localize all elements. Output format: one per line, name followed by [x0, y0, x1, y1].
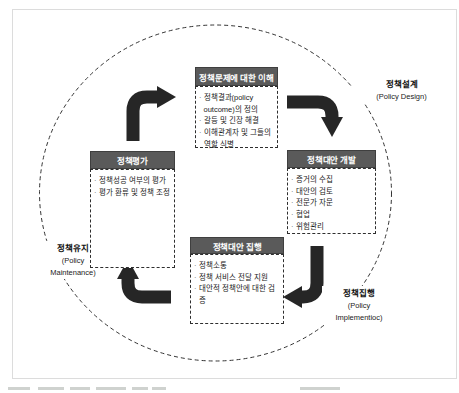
- bullet-icon: ·: [94, 175, 97, 187]
- label-policy-implementation-ko: 정책집행: [324, 287, 394, 300]
- label-policy-design: 정책설계 (Policy Design): [352, 77, 451, 104]
- node-policy-alternatives-header: 정책대안 개발: [287, 150, 376, 168]
- node-item-text: 증거의 수집: [296, 174, 333, 186]
- label-policy-maintenance-en2: Maintenance): [35, 267, 111, 279]
- node-item: ·정책 서비스 전달 지원: [194, 272, 280, 284]
- node-item: ·정책소통: [194, 260, 280, 272]
- node-policy-evaluation-header: 정책평가: [90, 151, 175, 169]
- label-policy-implementation-en2: Implementioc): [324, 312, 394, 324]
- label-policy-design-en: (Policy Design): [354, 91, 449, 103]
- bullet-icon: ·: [291, 221, 294, 233]
- policy-cycle-figure: 정책문제에 대한 이해 ·정책결과(policy outcome)의 정의·갈등…: [0, 0, 459, 393]
- cycle-overlay-graphics: [0, 0, 459, 393]
- node-policy-alternatives: 정책대안 개발 ·증거의 수집·대안의 검토·전문가 자문·협업·위험관리: [287, 150, 376, 234]
- node-item: ·대안의 검토: [291, 186, 372, 198]
- node-policy-problem: 정책문제에 대한 이해 ·정책결과(policy outcome)의 정의·갈등…: [195, 67, 278, 148]
- node-policy-problem-body: ·정책결과(policy outcome)의 정의·갈등 및 긴장 해결·이해관…: [195, 86, 278, 148]
- bullet-icon: ·: [199, 92, 202, 104]
- arrow-evaluation-to-problem-icon: [133, 86, 176, 141]
- node-policy-problem-header: 정책문제에 대한 이해: [195, 67, 278, 86]
- bullet-icon: ·: [291, 209, 294, 221]
- bullet-icon: ·: [291, 197, 294, 209]
- label-policy-implementation: 정책집행 (Policy Implementioc): [322, 286, 396, 324]
- node-policy-implementation-body: ·정책소통·정책 서비스 전달 지원·대안적 정책안에 대한 검증: [190, 254, 284, 324]
- node-item: ·전문가 자문: [291, 197, 372, 209]
- node-policy-evaluation-body: ·정책성공 여부의 평가·평가 환류 및 정책 조정: [90, 169, 175, 268]
- arrow-problem-to-alternatives-icon: [287, 102, 343, 137]
- bullet-icon: ·: [291, 174, 294, 186]
- bullet-icon: ·: [199, 127, 202, 139]
- node-item-text: 이해관계자 및 그들의 역할 식별: [204, 127, 275, 150]
- node-item-text: 평가 환류 및 정책 조정: [99, 187, 170, 199]
- node-policy-implementation-header: 정책대안 집행: [190, 237, 284, 254]
- label-policy-design-ko: 정책설계: [354, 78, 449, 91]
- node-item-text: 전문가 자문: [296, 197, 333, 209]
- bullet-icon: ·: [194, 283, 197, 295]
- node-item-text: 협업: [296, 209, 310, 221]
- node-policy-alternatives-body: ·증거의 수집·대안의 검토·전문가 자문·협업·위험관리: [287, 168, 376, 234]
- node-item-text: 정책 서비스 전달 지원: [199, 272, 268, 284]
- node-item: ·대안적 정책안에 대한 검증: [194, 283, 280, 306]
- bullet-icon: ·: [291, 186, 294, 198]
- node-item-text: 갈등 및 긴장 해결: [204, 115, 259, 127]
- node-item: ·평가 환류 및 정책 조정: [94, 187, 171, 199]
- node-item-text: 정책결과(policy outcome)의 정의: [204, 92, 275, 115]
- label-policy-implementation-en1: (Policy: [324, 300, 394, 312]
- node-item-text: 정책성공 여부의 평가: [99, 175, 166, 187]
- bullet-icon: ·: [94, 187, 97, 199]
- node-policy-evaluation: 정책평가 ·정책성공 여부의 평가·평가 환류 및 정책 조정: [90, 151, 175, 268]
- node-item-text: 대안의 검토: [296, 186, 333, 198]
- node-item: ·협업: [291, 209, 372, 221]
- node-item-text: 대안적 정책안에 대한 검증: [199, 283, 281, 306]
- bullet-icon: ·: [194, 272, 197, 284]
- bullet-icon: ·: [199, 115, 202, 127]
- node-item: ·갈등 및 긴장 해결: [199, 115, 274, 127]
- node-item: ·위험관리: [291, 221, 372, 233]
- node-item: ·정책성공 여부의 평가: [94, 175, 171, 187]
- node-item: ·이해관계자 및 그들의 역할 식별: [199, 127, 274, 150]
- bullet-icon: ·: [194, 260, 197, 272]
- node-policy-implementation: 정책대안 집행 ·정책소통·정책 서비스 전달 지원·대안적 정책안에 대한 검…: [190, 237, 284, 324]
- node-item-text: 위험관리: [296, 221, 324, 233]
- node-item-text: 정책소통: [199, 260, 227, 272]
- arrow-alternatives-to-implementation-icon: [283, 246, 317, 308]
- node-item: ·증거의 수집: [291, 174, 372, 186]
- node-item: ·정책결과(policy outcome)의 정의: [199, 92, 274, 115]
